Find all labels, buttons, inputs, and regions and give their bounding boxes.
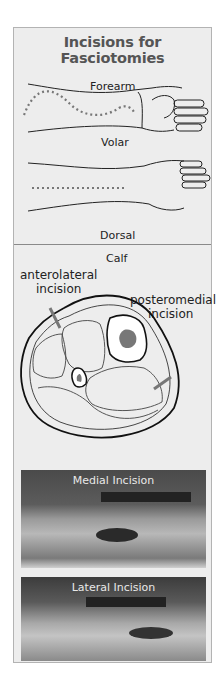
- incision-wound: [96, 528, 138, 542]
- incision-wound: [129, 627, 173, 639]
- calf-cross-section-diagram: [14, 28, 213, 664]
- lateral-incision-caption: Lateral Incision: [21, 581, 206, 594]
- medial-incision-caption: Medial Incision: [21, 474, 206, 487]
- fixator-device: [101, 492, 191, 502]
- fasciotomy-figure-panel: Incisions for Fasciotomies Forearm Volar…: [13, 27, 212, 663]
- fixator-device: [86, 597, 166, 607]
- lateral-incision-photo: Lateral Incision: [21, 577, 206, 661]
- medial-incision-photo: Medial Incision: [21, 470, 206, 568]
